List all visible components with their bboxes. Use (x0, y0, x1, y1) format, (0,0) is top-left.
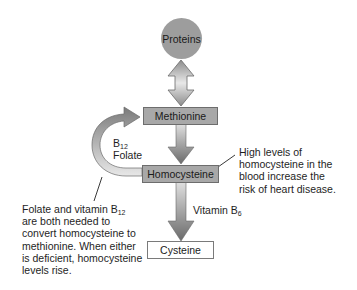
callout-left-line: are both needed to (22, 215, 142, 227)
node-proteins-label: Proteins (162, 33, 201, 45)
callout-left-b12-subscript: 12 (118, 209, 126, 216)
node-methionine-label: Methionine (155, 110, 206, 122)
callout-right-line: blood increase the (239, 170, 336, 182)
leader-line-right (218, 155, 235, 167)
callout-right-line: risk of heart disease. (239, 183, 336, 195)
vitamin-b6-text: Vitamin B (193, 204, 238, 216)
node-homocysteine: Homocysteine (142, 165, 219, 183)
node-cysteine: Cysteine (147, 241, 214, 259)
callout-left-text: Folate and vitamin B12 are both needed t… (22, 203, 142, 276)
callout-right-line: homocysteine in the (239, 158, 336, 170)
callout-left-line: methionine. When either (22, 240, 142, 252)
callout-left-line: levels rise. (22, 264, 142, 276)
vitamin-b6-subscript: 6 (238, 210, 242, 217)
arrow-homocysteine-cysteine (168, 182, 194, 241)
node-cysteine-label: Cysteine (160, 244, 201, 256)
callout-left-line: convert homocysteine to (22, 227, 142, 239)
arrow-methionine-homocysteine (168, 124, 194, 164)
callout-right-text: High levels of homocysteine in the blood… (239, 146, 336, 195)
b12-label: B (113, 137, 120, 149)
node-methionine: Methionine (143, 107, 218, 125)
double-arrow-proteins-methionine (168, 60, 194, 106)
callout-left-line: Folate and vitamin B (22, 203, 118, 215)
cycle-label: B12 Folate (113, 137, 142, 161)
callout-right-line: High levels of (239, 146, 336, 158)
node-proteins: Proteins (161, 18, 202, 59)
node-homocysteine-label: Homocysteine (147, 168, 214, 180)
leader-line-left (94, 177, 102, 201)
folate-label: Folate (113, 149, 142, 161)
vitamin-b6-label: Vitamin B6 (193, 204, 242, 216)
callout-left-line: is deficient, homocysteine (22, 252, 142, 264)
